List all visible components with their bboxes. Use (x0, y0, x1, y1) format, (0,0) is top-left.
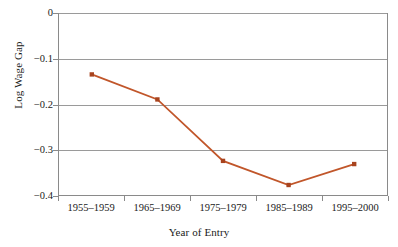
plot-area (58, 13, 388, 196)
data-point-marker (352, 162, 356, 166)
y-axis-tick-label: −0.2 (18, 100, 53, 111)
y-axis-tick-labels: 0−0.1−0.2−0.3−0.4 (18, 0, 53, 247)
x-axis-tick-label: 1965–1969 (124, 203, 190, 214)
data-point-marker (90, 72, 94, 76)
data-series-svg (59, 13, 387, 195)
line-chart: Log Wage Gap 0−0.1−0.2−0.3−0.4 1955–1959… (0, 0, 398, 247)
x-axis-tick-label: 1955–1959 (58, 203, 124, 214)
data-point-marker (286, 183, 290, 187)
x-axis-tick-label: 1995–2000 (322, 203, 388, 214)
x-axis-tick (190, 196, 191, 201)
data-point-marker (155, 97, 159, 101)
x-axis-tick-label: 1985–1989 (256, 203, 322, 214)
y-axis-tick-label: 0 (18, 8, 53, 19)
x-axis-tick (124, 196, 125, 201)
series-line (92, 74, 354, 185)
x-axis-tick (322, 196, 323, 201)
x-axis-tick (388, 196, 389, 201)
x-axis-tick (58, 196, 59, 201)
y-axis-tick-label: −0.1 (18, 54, 53, 65)
data-point-marker (221, 159, 225, 163)
y-axis-tick-label: −0.3 (18, 145, 53, 156)
x-axis-tick-label: 1975–1979 (190, 203, 256, 214)
y-axis-tick-label: −0.4 (18, 191, 53, 202)
x-axis-title: Year of Entry (0, 226, 398, 238)
x-axis-tick (256, 196, 257, 201)
